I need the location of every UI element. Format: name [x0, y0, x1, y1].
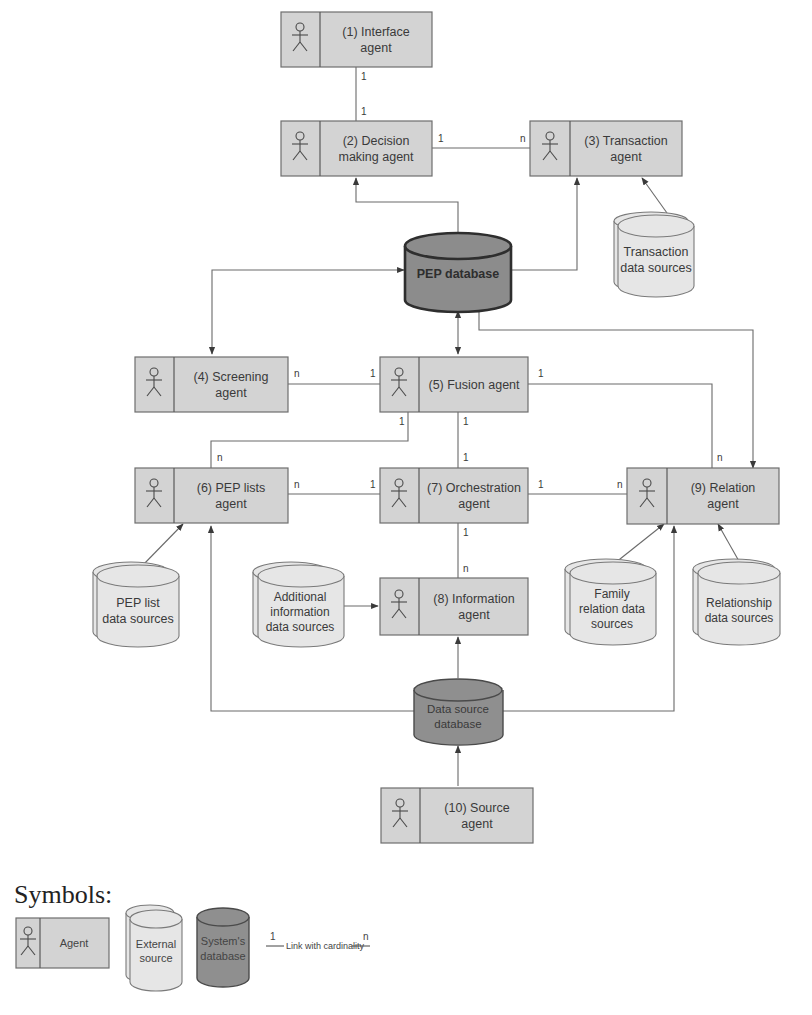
source-label: data sources [620, 261, 692, 275]
legend-external-source: External source [126, 905, 182, 991]
agent-label: (10) Source [444, 801, 509, 815]
source-label: data sources [705, 611, 774, 625]
agent-label: agent [458, 497, 490, 511]
agent-label: agent [707, 497, 739, 511]
cardinality-label: n [617, 479, 623, 490]
agent-screening[interactable]: (4) Screening agent [135, 357, 288, 412]
cardinality-label: n [294, 368, 300, 379]
source-label: Family [594, 587, 629, 601]
agent-label: agent [461, 817, 493, 831]
database-label: PEP database [417, 267, 500, 281]
agent-label: making agent [338, 150, 414, 164]
source-label: Transaction [624, 245, 689, 259]
architecture-diagram: 1 1 1 n n 1 1 n 1 1 1 n n 1 1 n 1 n (1) … [0, 0, 812, 1015]
external-transaction-data-sources[interactable]: Transaction data sources [614, 212, 694, 297]
agent-label: (4) Screening [193, 370, 268, 384]
legend-link-left: 1 [270, 931, 276, 942]
agent-label: agent [215, 497, 247, 511]
arrow-relationshipds-relation [718, 524, 740, 563]
arrow-peplistds-peplists [142, 524, 183, 566]
agent-label: (5) Fusion agent [428, 378, 520, 392]
pep-database[interactable]: PEP database [405, 233, 511, 312]
arrow-pepdb-transaction [512, 178, 577, 270]
legend-system-label: System's [201, 935, 246, 947]
arrow-familyds-relation [615, 524, 664, 563]
cardinality-label: 1 [538, 368, 544, 379]
agent-label: (3) Transaction [584, 134, 667, 148]
agent-label: agent [360, 41, 392, 55]
source-label: data sources [266, 620, 335, 634]
source-label: Additional [274, 590, 327, 604]
cardinality-label: 1 [538, 479, 544, 490]
cardinality-label: n [717, 452, 723, 463]
agent-label: (1) Interface [342, 25, 409, 39]
agent-label: (2) Decision [343, 134, 410, 148]
agent-label: (9) Relation [691, 481, 756, 495]
cardinality-label: 1 [463, 527, 469, 538]
legend-agent: Agent [16, 918, 109, 968]
data-source-database[interactable]: Data source database [414, 679, 503, 745]
agent-label: (8) Information [433, 592, 514, 606]
source-label: sources [591, 617, 633, 631]
agent-orchestration[interactable]: (7) Orchestration agent [380, 468, 528, 523]
cardinality-label: n [463, 563, 469, 574]
arrow-pepdb-screening [212, 270, 404, 354]
cardinality-label: 1 [399, 416, 405, 427]
cardinality-label: 1 [361, 71, 367, 82]
cardinality-label: 1 [438, 133, 444, 144]
agent-label: (7) Orchestration [427, 481, 521, 495]
legend-system-label: database [200, 950, 245, 962]
cardinality-label: n [217, 452, 223, 463]
cardinality-label: 1 [370, 368, 376, 379]
cardinality-label: 1 [463, 416, 469, 427]
external-pep-list-data-sources[interactable]: PEP list data sources [93, 562, 179, 647]
agent-transaction[interactable]: (3) Transaction agent [530, 121, 682, 176]
agent-label: agent [610, 150, 642, 164]
agent-label: agent [458, 608, 490, 622]
legend-external-label: source [139, 952, 172, 964]
source-label: relation data [579, 602, 645, 616]
legend-link: 1 Link with cardinality n [266, 931, 370, 951]
legend-agent-label: Agent [60, 937, 89, 949]
source-label: data sources [102, 612, 174, 626]
cardinality-label: n [520, 133, 526, 144]
link-fusion-peplists [211, 412, 408, 468]
legend: Agent External source System's database … [16, 905, 370, 991]
source-label: Relationship [706, 596, 772, 610]
agent-relation[interactable]: (9) Relation agent [627, 468, 779, 524]
agent-fusion[interactable]: (5) Fusion agent [380, 357, 528, 412]
cardinality-label: n [294, 479, 300, 490]
database-label: database [434, 718, 481, 730]
cardinality-label: 1 [361, 106, 367, 117]
legend-title: Symbols: [14, 880, 112, 910]
source-label: information [270, 605, 329, 619]
agent-pep-lists[interactable]: (6) PEP lists agent [135, 468, 288, 523]
legend-link-right: n [363, 931, 369, 942]
legend-external-label: External [136, 938, 176, 950]
external-family-relation-data-sources[interactable]: Family relation data sources [565, 559, 656, 645]
cardinality-label: 1 [463, 452, 469, 463]
arrow-pepdb-decision [356, 178, 458, 232]
database-label: Data source [427, 703, 489, 715]
link-fusion-relation [528, 384, 712, 468]
agent-interface[interactable]: (1) Interface agent [281, 12, 432, 67]
cardinality-label: 1 [370, 479, 376, 490]
external-additional-information-data-sources[interactable]: Additional information data sources [253, 562, 344, 647]
arrow-transactionds-transaction [642, 178, 667, 213]
agent-decision-making[interactable]: (2) Decision making agent [281, 121, 432, 176]
agent-source[interactable]: (10) Source agent [381, 788, 533, 843]
external-relationship-data-sources[interactable]: Relationship data sources [693, 559, 780, 645]
legend-link-label: Link with cardinality [286, 941, 365, 951]
source-label: PEP list [116, 596, 160, 610]
agent-information[interactable]: (8) Information agent [380, 578, 528, 635]
agent-label: (6) PEP lists [197, 481, 266, 495]
agent-label: agent [215, 386, 247, 400]
legend-system-database: System's database [197, 908, 249, 987]
